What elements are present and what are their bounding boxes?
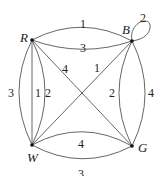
- weighted-multigraph: 132413122443 RBWG: [0, 0, 161, 176]
- edge-weight-label: 3: [78, 167, 84, 176]
- vertex-b: [130, 39, 134, 43]
- vertex-w: [30, 143, 34, 147]
- vertex-label-r: R: [19, 30, 28, 45]
- edge-weight-label: 3: [80, 41, 86, 55]
- edge-bg-2: [119, 41, 132, 146]
- edge-rw-3: [19, 40, 32, 145]
- edge-weight-label: 2: [140, 11, 146, 25]
- edge-weight-label: 1: [35, 86, 41, 100]
- vertex-label-g: G: [138, 140, 148, 155]
- edge-weight-label: 1: [94, 61, 100, 75]
- edge-weight-label: 2: [45, 86, 51, 100]
- vertex-g: [130, 144, 134, 148]
- vertex-label-b: B: [122, 22, 130, 37]
- vertex-r: [30, 38, 34, 42]
- edge-weight-label: 4: [78, 137, 84, 151]
- edge-weight-label: 2: [109, 86, 115, 100]
- edge-bg-4: [132, 41, 145, 146]
- edge-weight-label: 4: [62, 62, 68, 76]
- edge-weight-label: 1: [80, 17, 86, 31]
- edge-weight-label: 3: [8, 86, 14, 100]
- vertex-label-w: W: [27, 150, 39, 165]
- edge-weight-label: 4: [148, 86, 154, 100]
